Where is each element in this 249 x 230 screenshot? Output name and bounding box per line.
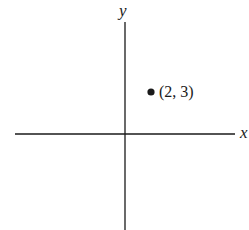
point-label: (2, 3) xyxy=(159,84,194,100)
axes-graphic xyxy=(0,0,249,230)
x-axis-label: x xyxy=(240,124,248,141)
point-marker xyxy=(147,88,154,95)
coordinate-plane: y x (2, 3) xyxy=(0,0,249,230)
y-axis-label: y xyxy=(119,2,127,19)
